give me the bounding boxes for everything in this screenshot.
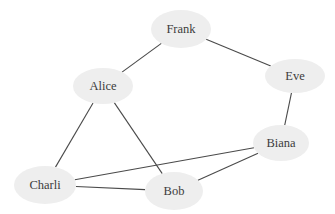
node-eve[interactable]: Eve (265, 59, 325, 93)
node-label: Charli (29, 178, 61, 192)
node-label: Alice (89, 79, 117, 93)
node-label: Bob (164, 184, 185, 198)
edge-frank-alice (122, 43, 161, 72)
edge-alice-bob (114, 103, 162, 174)
edge-biana-bob (198, 153, 258, 180)
node-label: Biana (266, 136, 296, 150)
edge-frank-eve (206, 39, 271, 66)
nodes-layer: FrankAliceEveBianaCharliBob (14, 10, 325, 210)
node-frank[interactable]: Frank (151, 10, 211, 48)
edge-charli-bob (76, 186, 145, 189)
edge-alice-charli (55, 103, 93, 167)
node-biana[interactable]: Biana (253, 125, 309, 161)
node-label: Frank (166, 22, 196, 36)
node-label: Eve (285, 69, 305, 83)
network-graph: FrankAliceEveBianaCharliBob (0, 0, 335, 214)
edge-eve-biana (285, 93, 292, 125)
node-bob[interactable]: Bob (145, 172, 203, 210)
edges-layer (55, 39, 291, 189)
node-alice[interactable]: Alice (73, 68, 133, 104)
node-charli[interactable]: Charli (14, 166, 76, 204)
